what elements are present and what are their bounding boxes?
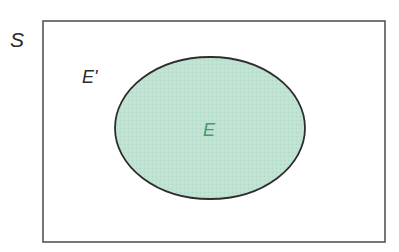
- venn-diagram: [0, 0, 399, 252]
- sample-space-label: S: [10, 29, 24, 50]
- event-label: E: [203, 121, 215, 139]
- complement-label: E': [82, 68, 97, 86]
